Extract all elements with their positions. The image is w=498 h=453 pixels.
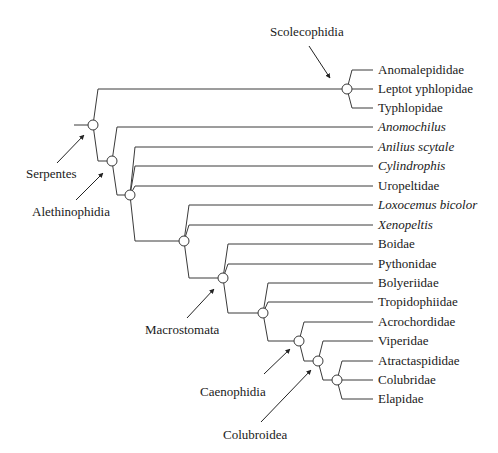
leaf-label-anomalepididae: Anomalepididae	[378, 62, 464, 77]
arrow-alethinophidia	[76, 173, 103, 200]
node-alethinophidia	[107, 156, 117, 166]
branch-xenopeltis	[184, 225, 373, 241]
branch-tropidophiidae	[263, 302, 373, 313]
leaf-label-typhlopidae: Typhlopidae	[378, 100, 443, 115]
branch-bolyeriidae	[263, 283, 373, 313]
branch-to-scolecophidia	[93, 89, 342, 125]
arrow-serpentes	[57, 135, 84, 163]
leaf-label-uropeltidae: Uropeltidae	[378, 178, 440, 193]
node-caenophidia	[294, 336, 304, 346]
leaf-label-colubridae: Colubridae	[378, 372, 436, 387]
clade-label-macrostomata: Macrostomata	[145, 322, 220, 337]
branch-to-node-184	[130, 195, 180, 241]
node-serpentes	[88, 120, 98, 130]
arrow-caenophidia	[264, 349, 290, 374]
node-pythonoid	[179, 236, 189, 246]
branch-anomochilus	[112, 127, 373, 161]
node-anilioid	[125, 190, 135, 200]
leaf-label-tropidophiidae: Tropidophiidae	[378, 294, 458, 309]
clade-label-scolecophidia: Scolecophidia	[270, 24, 344, 39]
clade-label-colubroidea: Colubroidea	[223, 427, 287, 442]
leaf-label-atractaspididae: Atractaspididae	[378, 353, 460, 368]
phylogenetic-tree: Anomalepididae Leptot yphlopidae Typhlop…	[0, 0, 498, 453]
leaf-label-cylindrophis: Cylindrophis	[378, 158, 445, 173]
clade-label-alethinophidia: Alethinophidia	[32, 204, 110, 219]
clade-label-caenophidia: Caenophidia	[200, 384, 266, 399]
leaf-label-anomochilus: Anomochilus	[377, 119, 446, 134]
leaf-label-viperidae: Viperidae	[378, 333, 429, 348]
node-scolecophidia	[342, 84, 352, 94]
branch-loxocemus	[184, 205, 373, 241]
leaf-label-bolyeriidae: Bolyeriidae	[378, 275, 439, 290]
branch-to-alethinophidia	[93, 125, 108, 161]
leaf-label-xenopeltis: Xenopeltis	[377, 217, 433, 232]
branch-to-caenophidia	[263, 313, 295, 341]
arrow-colubroidea	[261, 370, 311, 422]
leaf-label-acrochordidae: Acrochordidae	[378, 314, 455, 329]
branch-anilius	[130, 147, 373, 195]
branch-uropeltidae	[130, 186, 373, 195]
branch-to-node-263	[223, 278, 259, 313]
clade-label-serpentes: Serpentes	[26, 166, 77, 181]
node-booid	[258, 308, 268, 318]
node-elapoid	[332, 375, 342, 385]
leaf-label-anilius: Anilius scytale	[377, 139, 454, 154]
leaf-label-boidae: Boidae	[378, 236, 415, 251]
arrow-scolecophidia	[309, 46, 330, 78]
branch-pythonidae	[223, 264, 373, 278]
leaf-label-leptotyphlopidae: Leptot yphlopidae	[378, 81, 473, 96]
arrow-macrostomata	[187, 289, 214, 318]
node-macrostomata	[218, 273, 228, 283]
leaf-label-loxocemus: Loxocemus bicolor	[377, 197, 478, 212]
branch-viperidae	[318, 341, 373, 361]
branch-elapidae	[337, 380, 373, 399]
branch-acrochordidae	[299, 322, 373, 341]
branch-to-node-130	[112, 161, 126, 195]
branch-cylindrophis	[130, 166, 373, 195]
branch-boidae	[223, 244, 373, 278]
leaf-label-elapidae: Elapidae	[378, 391, 424, 406]
branch-to-macrostomata	[184, 241, 219, 278]
node-colubroidea	[313, 356, 323, 366]
branch-atractaspididae	[337, 361, 373, 380]
leaf-label-pythonidae: Pythonidae	[378, 256, 437, 271]
